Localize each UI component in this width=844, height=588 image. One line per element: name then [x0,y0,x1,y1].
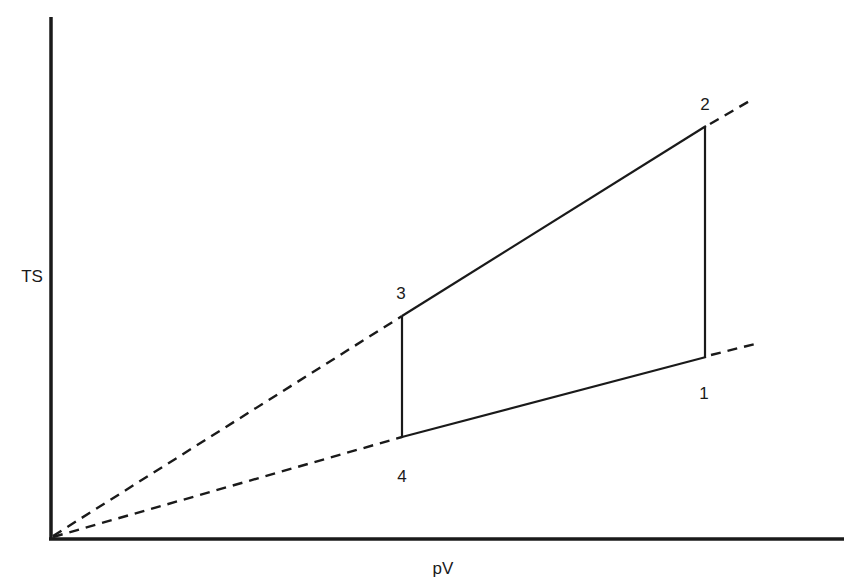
point-label-3: 3 [396,284,405,303]
upper-dashed-line-origin-to-3 [53,316,402,536]
edge-3-to-2 [402,126,706,316]
point-label-2: 2 [700,95,709,114]
upper-dashed-extension-beyond-2 [710,99,753,124]
x-axis-label: pV [433,559,454,578]
point-label-4: 4 [397,467,406,486]
lower-dashed-line-origin-to-4 [53,437,402,537]
edge-4-to-1 [402,357,706,437]
cycle-diagram: 2 3 4 1 TS pV [0,0,844,588]
y-axis-label: TS [21,267,43,286]
point-label-1: 1 [699,384,708,403]
lower-dashed-extension-beyond-1 [711,344,755,355]
